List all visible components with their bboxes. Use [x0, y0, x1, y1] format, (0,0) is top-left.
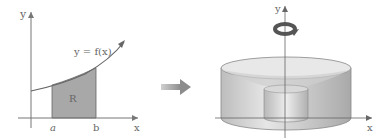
tick-a-label: a [50, 122, 56, 133]
inner-cylinder [264, 89, 308, 122]
curve-label: y = f(x) [73, 46, 112, 57]
right-y-axis-label: y [274, 3, 281, 14]
curve-arrowhead [118, 40, 125, 48]
x-axis-arrowhead [132, 115, 138, 121]
right-x-axis-label: x [367, 122, 373, 133]
right-y-arrowhead [282, 6, 288, 12]
diagram-canvas: y x y = f(x) R a b y x [0, 0, 391, 140]
inner-top [264, 85, 308, 93]
solid-of-revolution: y x [215, 3, 373, 138]
y-axis-arrowhead [28, 12, 34, 18]
rotation-arrow-icon [275, 24, 299, 36]
right-x-arrowhead [366, 115, 372, 121]
left-graph: y x y = f(x) R a b [18, 8, 140, 133]
tick-b-label: b [93, 122, 99, 133]
y-axis-label: y [19, 8, 27, 21]
transform-arrow [161, 79, 191, 95]
x-axis-label: x [134, 122, 140, 133]
region-label: R [69, 93, 77, 104]
